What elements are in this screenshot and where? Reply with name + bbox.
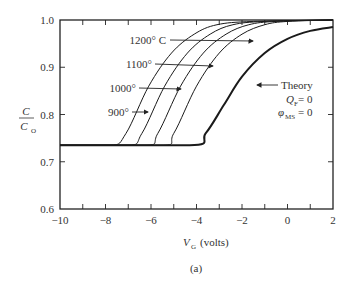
ytick-0.8: 0.8: [40, 109, 54, 121]
label-1200: 1200° C: [130, 34, 167, 46]
xtick--4: −4: [191, 214, 203, 226]
svg-text:C: C: [20, 120, 28, 132]
label-phims: φ MS = 0: [278, 106, 313, 121]
ytick-1.0: 1.0: [40, 14, 54, 26]
svg-text:Q: Q: [286, 93, 294, 105]
svg-text:G: G: [191, 243, 196, 251]
svg-text:V: V: [183, 236, 191, 248]
xtick--2: −2: [236, 214, 248, 226]
svg-text:= 0: = 0: [298, 93, 313, 105]
label-1100: 1100°: [126, 58, 152, 70]
svg-text:MS: MS: [285, 113, 295, 121]
figure-caption: (a): [190, 262, 203, 275]
ytick-0.9: 0.9: [40, 61, 54, 73]
cv-chart: 0.6 0.7 0.8 0.9 1.0 −10 −8 −6 −4 −2 0 2 …: [0, 0, 351, 288]
xtick--6: −6: [145, 214, 157, 226]
xtick-2: 2: [330, 214, 336, 226]
svg-text:(volts): (volts): [200, 236, 229, 249]
y-axis-label: C C O: [19, 105, 36, 135]
label-theory: Theory: [281, 79, 313, 91]
x-axis-label: V G (volts): [183, 236, 229, 251]
svg-text:φ: φ: [278, 106, 284, 118]
xtick--10: −10: [51, 214, 69, 226]
xtick-0: 0: [285, 214, 291, 226]
label-1000: 1000°: [110, 82, 136, 94]
svg-text:= 0: = 0: [298, 106, 313, 118]
svg-text:O: O: [31, 127, 36, 135]
svg-text:C: C: [22, 105, 30, 117]
ytick-0.7: 0.7: [40, 156, 54, 168]
label-900: 900°: [108, 106, 129, 118]
xtick--8: −8: [100, 214, 112, 226]
